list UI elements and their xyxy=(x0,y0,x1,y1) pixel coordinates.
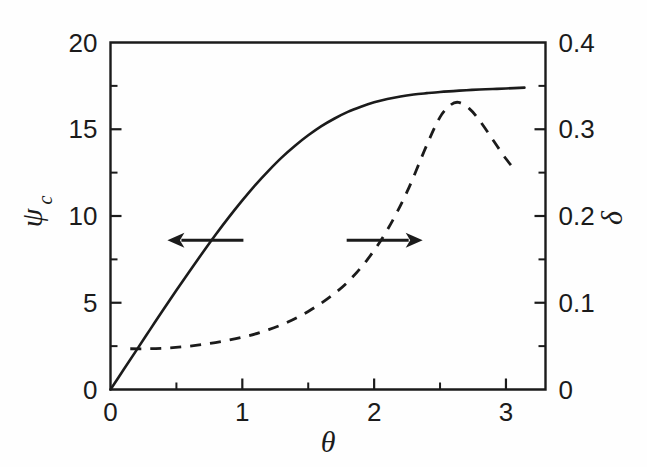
left-tick-label: 5 xyxy=(83,288,97,318)
left-axis-title: ψ c xyxy=(15,195,56,227)
y-axis-label-subscript: c xyxy=(34,195,56,204)
bottom-tick-label: 1 xyxy=(235,397,249,427)
left-tick-label: 0 xyxy=(83,375,97,405)
y-axis-label-psi: ψ xyxy=(15,207,48,227)
right-tick-label: 0.4 xyxy=(559,28,595,58)
left-tick-label: 15 xyxy=(69,114,98,144)
right-axis-ticks xyxy=(535,86,546,346)
right-axis-tick-labels: 00.10.20.30.4 xyxy=(559,28,595,405)
bottom-tick-label: 3 xyxy=(499,397,513,427)
x-axis-ticks xyxy=(176,379,506,390)
bottom-tick-label: 0 xyxy=(103,397,117,427)
left-tick-label: 10 xyxy=(69,201,98,231)
y2-axis-label-delta: δ xyxy=(595,210,628,225)
x-axis-label-theta: θ xyxy=(321,425,336,458)
left-pointing-arrow-icon xyxy=(167,233,243,248)
figure-container: 05101520 00.10.20.30.4 0123 ψ c δ θ xyxy=(0,0,647,467)
left-axis-ticks xyxy=(111,86,122,346)
chart-svg: 05101520 00.10.20.30.4 0123 ψ c δ θ xyxy=(0,0,647,467)
right-tick-label: 0 xyxy=(559,375,573,405)
curve-delta xyxy=(130,102,516,349)
left-tick-label: 20 xyxy=(69,28,98,58)
right-tick-label: 0.1 xyxy=(559,288,595,318)
left-axis-tick-labels: 05101520 xyxy=(69,28,98,405)
plot-frame xyxy=(111,43,546,390)
right-tick-label: 0.3 xyxy=(559,114,595,144)
right-pointing-arrow-icon xyxy=(347,233,423,248)
right-tick-label: 0.2 xyxy=(559,201,595,231)
x-axis-tick-labels: 0123 xyxy=(103,397,513,427)
bottom-tick-label: 2 xyxy=(367,397,381,427)
